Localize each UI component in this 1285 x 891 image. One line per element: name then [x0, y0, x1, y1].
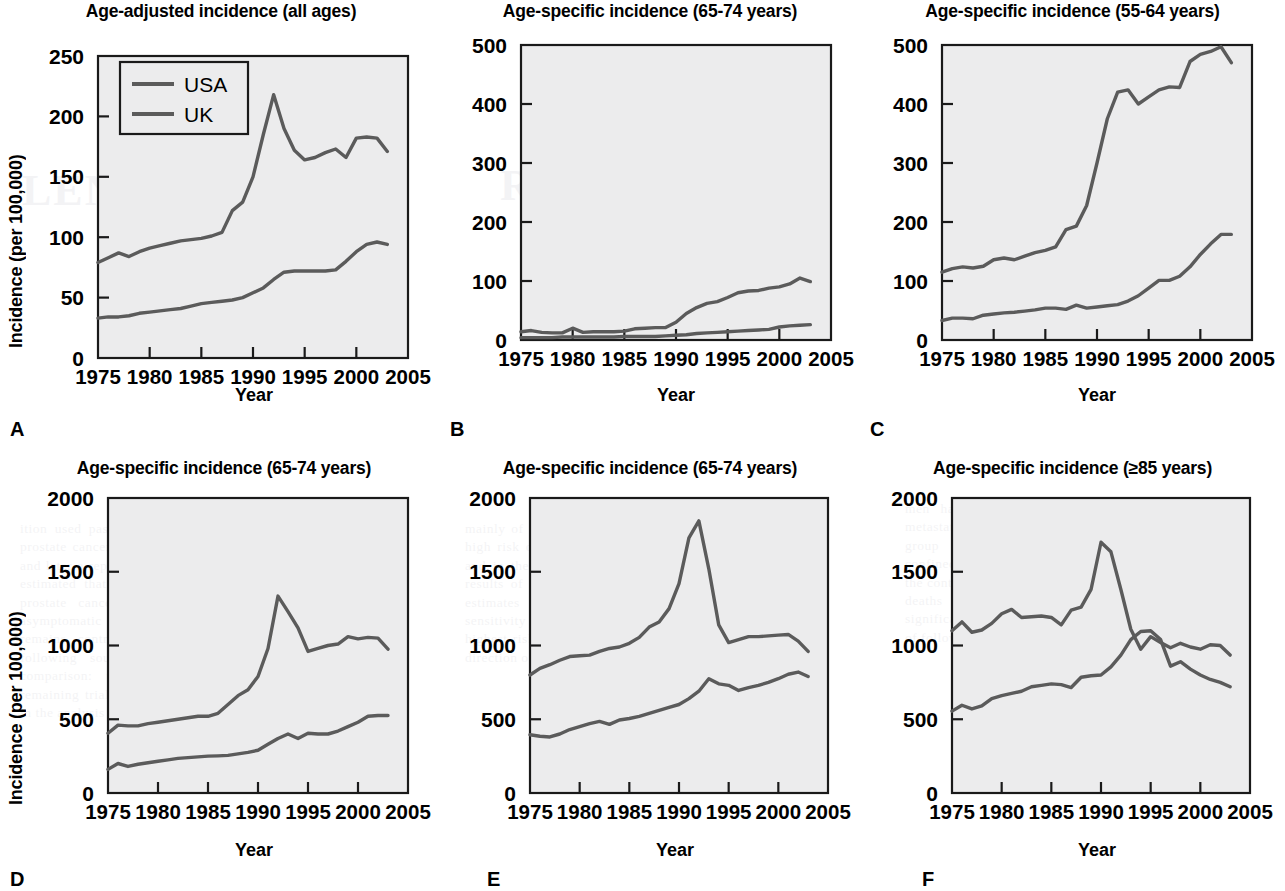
svg-text:1995: 1995	[285, 800, 331, 823]
chart-panel-D: Age-specific incidence (65-74 years) Inc…	[0, 440, 440, 891]
svg-text:250: 250	[49, 45, 84, 68]
svg-text:500: 500	[472, 34, 507, 57]
svg-text:2000: 2000	[335, 800, 381, 823]
svg-text:1990: 1990	[1078, 800, 1124, 823]
svg-text:1990: 1990	[656, 800, 702, 823]
chart-svg-B: 0100200300400500197519801985199019952000…	[440, 0, 860, 400]
svg-text:1990: 1990	[653, 347, 699, 370]
svg-text:2000: 2000	[891, 487, 938, 510]
chart-svg-F: 0500100015002000197519801985199019952000…	[860, 440, 1285, 855]
svg-text:1500: 1500	[47, 560, 94, 583]
svg-text:USA: USA	[184, 73, 227, 96]
svg-text:1995: 1995	[1126, 347, 1172, 370]
svg-text:1980: 1980	[135, 800, 181, 823]
svg-text:1975: 1975	[498, 347, 544, 370]
svg-text:1980: 1980	[971, 347, 1017, 370]
svg-text:2005: 2005	[385, 365, 431, 388]
svg-text:2000: 2000	[47, 487, 94, 510]
svg-text:2000: 2000	[334, 365, 380, 388]
svg-text:2000: 2000	[469, 487, 516, 510]
svg-text:200: 200	[472, 211, 507, 234]
svg-text:1980: 1980	[127, 365, 173, 388]
chart-panel-E: Age-specific incidence (65-74 years) Yea…	[440, 440, 860, 891]
svg-text:1000: 1000	[469, 634, 516, 657]
panel-letter-A: A	[10, 418, 24, 441]
svg-text:500: 500	[903, 708, 938, 731]
panel-letter-F: F	[922, 868, 934, 891]
svg-text:1985: 1985	[602, 347, 648, 370]
svg-text:1985: 1985	[1029, 800, 1075, 823]
svg-text:2005: 2005	[385, 800, 431, 823]
svg-text:1500: 1500	[891, 560, 938, 583]
svg-text:100: 100	[49, 226, 84, 249]
svg-text:1975: 1975	[507, 800, 553, 823]
incidence-figure-grid: Age-adjusted incidence (all ages) Incide…	[0, 0, 1285, 891]
svg-text:1995: 1995	[705, 347, 751, 370]
svg-text:2000: 2000	[1178, 347, 1224, 370]
svg-text:1985: 1985	[179, 365, 225, 388]
chart-panel-A: Age-adjusted incidence (all ages) Incide…	[0, 0, 440, 440]
svg-text:1990: 1990	[1074, 347, 1120, 370]
svg-text:1500: 1500	[469, 560, 516, 583]
svg-text:1980: 1980	[550, 347, 596, 370]
svg-text:400: 400	[893, 93, 928, 116]
svg-text:1990: 1990	[235, 800, 281, 823]
svg-text:1995: 1995	[706, 800, 752, 823]
svg-text:1000: 1000	[891, 634, 938, 657]
svg-text:50: 50	[61, 286, 84, 309]
chart-svg-C: 0100200300400500197519801985199019952000…	[860, 0, 1285, 400]
panel-letter-C: C	[870, 418, 884, 441]
svg-text:1985: 1985	[185, 800, 231, 823]
svg-text:500: 500	[481, 708, 516, 731]
panel-letter-B: B	[450, 418, 464, 441]
svg-text:1985: 1985	[1023, 347, 1069, 370]
svg-text:200: 200	[49, 105, 84, 128]
svg-text:UK: UK	[184, 103, 213, 126]
svg-text:2000: 2000	[757, 347, 803, 370]
svg-text:150: 150	[49, 165, 84, 188]
svg-text:1975: 1975	[85, 800, 131, 823]
svg-text:1975: 1975	[919, 347, 965, 370]
svg-text:100: 100	[472, 270, 507, 293]
svg-text:1975: 1975	[929, 800, 975, 823]
chart-svg-E: 0500100015002000197519801985199019952000…	[440, 440, 860, 855]
chart-panel-B: Age-specific incidence (65-74 years) Yea…	[440, 0, 860, 440]
svg-text:1975: 1975	[75, 365, 121, 388]
svg-text:500: 500	[59, 708, 94, 731]
svg-text:1000: 1000	[47, 634, 94, 657]
chart-panel-C: Age-specific incidence (55-64 years) Yea…	[860, 0, 1285, 440]
svg-text:2005: 2005	[1227, 800, 1273, 823]
svg-text:200: 200	[893, 211, 928, 234]
panel-letter-D: D	[10, 868, 24, 891]
svg-text:1995: 1995	[1128, 800, 1174, 823]
chart-panel-F: Age-specific incidence (≥85 years) Year …	[860, 440, 1285, 891]
svg-text:1995: 1995	[282, 365, 328, 388]
chart-svg-D: 0500100015002000197519801985199019952000…	[0, 440, 440, 855]
svg-text:1985: 1985	[607, 800, 653, 823]
svg-text:400: 400	[472, 93, 507, 116]
svg-text:2005: 2005	[1229, 347, 1275, 370]
svg-text:100: 100	[893, 270, 928, 293]
svg-text:2000: 2000	[756, 800, 802, 823]
svg-text:2000: 2000	[1178, 800, 1224, 823]
svg-text:2005: 2005	[808, 347, 854, 370]
svg-text:1980: 1980	[979, 800, 1025, 823]
svg-text:300: 300	[893, 152, 928, 175]
svg-text:1990: 1990	[230, 365, 276, 388]
chart-svg-A: 0501001502002501975198019851990199520002…	[0, 0, 440, 400]
svg-text:500: 500	[893, 34, 928, 57]
svg-text:300: 300	[472, 152, 507, 175]
svg-text:1980: 1980	[557, 800, 603, 823]
panel-letter-E: E	[487, 868, 500, 891]
svg-text:2005: 2005	[805, 800, 851, 823]
